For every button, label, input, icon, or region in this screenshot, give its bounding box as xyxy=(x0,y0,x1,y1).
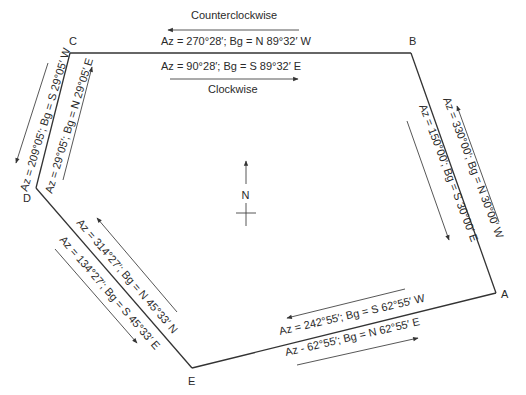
north-label: N xyxy=(242,189,250,201)
counterclockwise-label: Counterclockwise xyxy=(191,9,277,21)
vertex-label-d: D xyxy=(23,192,31,204)
vertex-label-b: B xyxy=(409,35,416,47)
edge-de xyxy=(36,188,192,368)
vertex-label-a: A xyxy=(501,288,509,300)
edge-cd-inner-label: Az = 29°05′; Bg = N 29°05′ E xyxy=(42,56,95,194)
clockwise-label: Clockwise xyxy=(208,83,258,95)
edge-cd-annotations: Az = 209°05′; Bg = S 29°05′ W Az = 29°05… xyxy=(16,46,95,195)
edge-de-annotations: Az = 314°27′; Bg = N 45°33′ N Az = 134°2… xyxy=(55,216,180,351)
vertex-label-e: E xyxy=(188,375,195,387)
vertex-label-c: C xyxy=(69,35,77,47)
edge-ba-annotations: Az = 330°00′; Bg = N 30°00′ W Az = 150°0… xyxy=(407,95,506,243)
edge-bc-annotations: Counterclockwise Az = 270°28′; Bg = N 89… xyxy=(161,9,312,95)
traverse-diagram: A B C D E N Counterclockwise Az = 270°28… xyxy=(0,0,526,395)
north-arrow: N xyxy=(236,161,256,226)
edge-bc-inner-label: Az = 90°28′; Bg = S 89°32′ E xyxy=(161,60,301,72)
traverse-polygon xyxy=(36,53,496,368)
edge-bc-outer-label: Az = 270°28′; Bg = N 89°32′ W xyxy=(161,35,312,47)
edge-ea-annotations: Az = 242°55′; Bg = S 62°55′ W Az - 62°55… xyxy=(278,289,427,365)
